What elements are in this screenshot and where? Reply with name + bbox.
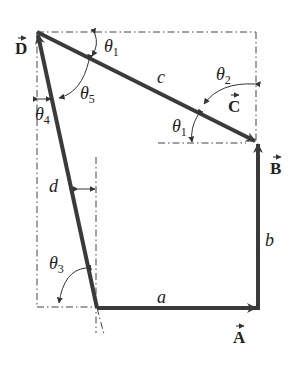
vector-d-arrow xyxy=(38,35,97,308)
vector-c-arrow xyxy=(37,32,255,141)
magnitude-b: b xyxy=(265,230,274,250)
theta2-label: θ2 xyxy=(216,64,231,87)
label-C: C xyxy=(228,95,240,116)
theta3-label: θ3 xyxy=(49,253,64,276)
theta1-top-label: θ1 xyxy=(104,36,119,59)
label-D: D xyxy=(15,38,27,58)
vector-loop-diagram: D C B A a b c d θ1 θ5 θ4 θ2 θ1 θ3 xyxy=(0,0,301,368)
theta1-top-arc xyxy=(92,34,96,56)
magnitude-d: d xyxy=(49,176,59,196)
theta4-label: θ4 xyxy=(35,104,50,127)
theta5-label: θ5 xyxy=(80,83,95,106)
theta1-bottom-arc xyxy=(192,115,198,142)
d-extension-guide xyxy=(97,308,104,334)
theta1-bottom-label: θ1 xyxy=(172,116,187,139)
svg-text:B: B xyxy=(270,159,281,178)
label-B: B xyxy=(270,157,281,178)
label-A: A xyxy=(233,326,246,347)
magnitude-a: a xyxy=(157,287,166,307)
svg-text:A: A xyxy=(233,328,246,347)
svg-text:C: C xyxy=(228,97,240,116)
magnitude-c: c xyxy=(157,67,165,87)
svg-text:D: D xyxy=(15,39,27,58)
